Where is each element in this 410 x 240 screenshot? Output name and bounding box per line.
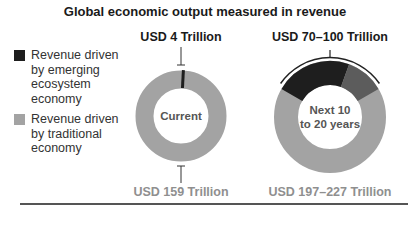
current-top-label: USD 4 Trillion bbox=[131, 30, 231, 44]
current-bottom-label: USD 159 Trillion bbox=[121, 185, 241, 199]
future-center-line2: to 20 years bbox=[295, 117, 365, 131]
future-center-line1: Next 10 bbox=[295, 103, 365, 117]
future-bottom-label: USD 197–227 Trillion bbox=[265, 185, 395, 199]
future-top-label: USD 70–100 Trillion bbox=[270, 30, 390, 44]
future-range-segment bbox=[345, 76, 368, 95]
bottom-rule bbox=[20, 203, 408, 205]
current-center-label: Current bbox=[151, 109, 211, 123]
future-emerging-segment bbox=[292, 73, 345, 95]
future-center-label: Next 10 to 20 years bbox=[295, 103, 365, 131]
